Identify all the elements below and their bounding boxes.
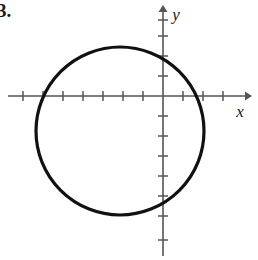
figure-page: 3.	[0, 0, 258, 260]
y-axis-arrow-icon	[159, 5, 168, 12]
axes-group	[8, 5, 252, 256]
y-axis-label: y	[170, 5, 180, 24]
plotted-circle-curve	[36, 47, 204, 215]
x-axis-arrow-icon	[245, 92, 252, 101]
coordinate-plane-figure: y x	[0, 0, 258, 260]
x-axis-label: x	[235, 102, 244, 121]
